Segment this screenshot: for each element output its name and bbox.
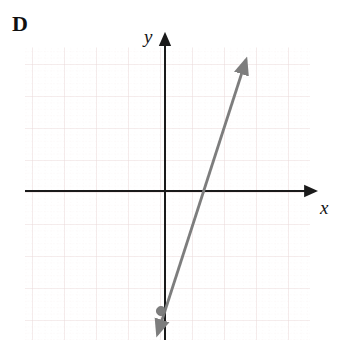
- y-axis-label: y: [144, 27, 152, 46]
- x-axis-label: x: [320, 198, 328, 217]
- grid-background: [25, 47, 310, 340]
- marked-point: [156, 306, 165, 315]
- panel-label: D: [12, 13, 28, 35]
- grid-area: [25, 47, 310, 340]
- graph-figure: D: [0, 0, 340, 348]
- coordinate-plane-svg: [0, 0, 340, 348]
